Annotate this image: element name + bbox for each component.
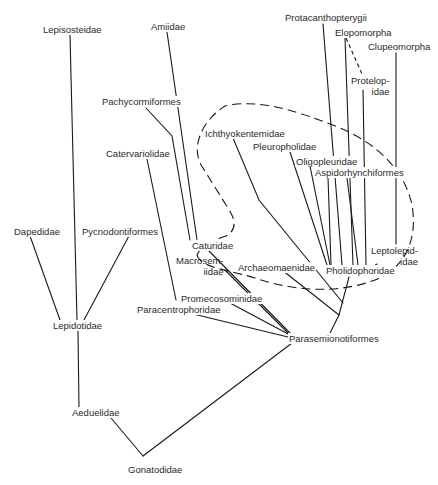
taxon-label-pholidophoridae: Pholidophoridae: [325, 265, 396, 276]
branch-lepidotidae: [78, 331, 79, 409]
branch-pholidophoridae: [330, 277, 349, 333]
branch-dapedidae: [30, 236, 60, 320]
taxon-label-elopomorpha: Elopomorpha: [334, 27, 393, 38]
branch-pachycormiformes: [146, 108, 190, 240]
taxon-label-ichthyokentemidae: Ichthyokentemidae: [204, 128, 286, 139]
taxon-label-aeduelidae: Aeduelidae: [71, 407, 121, 418]
branch-aspidorhynchiformes: [328, 177, 331, 265]
taxon-label-pycnodontiformes: Pycnodontiformes: [81, 226, 159, 237]
branch-elopomorpha: [345, 38, 353, 265]
taxon-label-caturidae: Caturidae: [191, 240, 234, 251]
branch-archaeomaenidae: [282, 270, 339, 315]
taxon-label-aspidorhynchiformes: Aspidorhynchiformes: [314, 167, 405, 178]
taxon-label-lepidotidae: Lepidotidae: [52, 320, 103, 331]
taxon-label-protelopidae: Protelop- idae: [350, 75, 391, 97]
branch-protacanthopterygii: [323, 24, 342, 265]
branch-gonatodidae: [143, 343, 292, 456]
taxon-label-pleuropholidae: Pleuropholidae: [252, 141, 317, 152]
taxon-label-protacanthopterygii: Protacanthopterygii: [284, 12, 368, 23]
branch-aeduelidae: [111, 418, 143, 456]
branch-pycnodontiformes: [84, 234, 130, 320]
taxon-label-leptolepididae: Leptolepid- idae: [370, 245, 419, 267]
taxon-label-parasemionotiformes: Parasemionotiformes: [288, 333, 380, 344]
taxon-label-promecosominidae: Promecosominidae: [180, 293, 263, 304]
taxon-label-gonatodidae: Gonatodidae: [127, 464, 183, 475]
taxon-label-macrosemiidae: Macrosem- iidae: [175, 255, 225, 277]
taxon-label-pachycormiformes: Pachycormiformes: [101, 96, 182, 107]
taxon-label-amiidae: Amiidae: [150, 21, 186, 32]
taxon-label-archaeomaenidae: Archaeomaenidae: [237, 262, 316, 273]
taxon-label-lepisosteidae: Lepisosteidae: [42, 24, 103, 35]
dashed-branches: [346, 38, 362, 74]
taxon-label-clupeomorpha: Clupeomorpha: [367, 41, 431, 52]
taxon-label-catervariolidae: Catervariolidae: [105, 148, 171, 159]
dashed-branch-elopomorpha-protelopidae: [346, 38, 362, 74]
taxon-label-dapedidae: Dapedidae: [13, 226, 61, 237]
taxon-label-oligopleuridae: Oligopleuridae: [295, 156, 358, 167]
branch-lepisosteidae: [70, 35, 77, 320]
taxon-label-paracentrophoridae: Paracentrophoridae: [136, 304, 221, 315]
branch-oligopleuridae: [310, 166, 330, 265]
